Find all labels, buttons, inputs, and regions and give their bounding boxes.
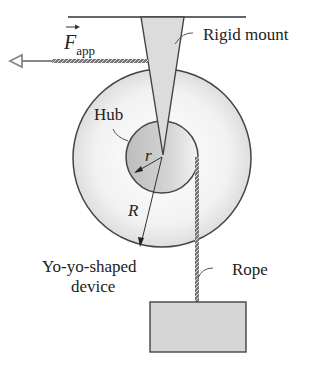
force-arrow-head-icon	[10, 55, 22, 67]
force-symbol: F	[64, 31, 76, 53]
force-subscript: app	[76, 43, 95, 58]
hanging-block	[150, 302, 246, 352]
rope-leader-line	[198, 268, 213, 278]
device-label-line1: Yo-yo-shaped	[42, 258, 137, 275]
rigid-mount-label: Rigid mount	[203, 26, 288, 43]
yoyo-diagram: Fapp Rigid mount Hub r R Yo-yo-shaped de…	[0, 0, 312, 366]
small-radius-label: r	[145, 147, 152, 164]
diagram-graphic	[0, 0, 312, 366]
large-radius-label: R	[128, 202, 138, 219]
force-label: Fapp	[64, 32, 95, 52]
vertical-rope	[195, 157, 199, 303]
device-label-line2: device	[71, 278, 115, 295]
force-vector-overarrow-head-icon	[75, 25, 80, 30]
horizontal-rope	[52, 59, 148, 63]
rope-label: Rope	[232, 261, 268, 278]
hub-label: Hub	[94, 106, 123, 123]
